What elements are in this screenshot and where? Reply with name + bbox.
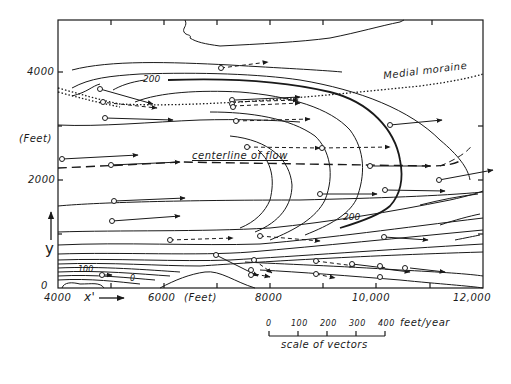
centerline-label: centerline of flow <box>192 150 288 161</box>
scale-tick-400: 400 <box>378 319 395 328</box>
y-axis-unit: (Feet) <box>19 133 52 144</box>
x-tick-8000: 8000 <box>255 292 282 303</box>
x-tick-10000: 10,000 <box>352 292 390 303</box>
x-axis-symbol: x' <box>84 290 95 304</box>
x-tick-4000: 4000 <box>44 292 71 303</box>
scale-tick-100: 100 <box>291 319 308 328</box>
contour-label-100: 100 <box>78 265 93 274</box>
contour-label-0: 0 <box>130 274 135 283</box>
vector-origins <box>60 66 442 280</box>
x-tick-6000: 6000 <box>148 292 175 303</box>
scale-bar <box>269 331 385 336</box>
y-tick-2000: 2000 <box>28 174 55 185</box>
contour-label-200-top: 200 <box>143 74 160 84</box>
x-tick-12000: 12,000 <box>453 292 491 303</box>
scale-caption: scale of vectors <box>281 339 368 350</box>
scale-tick-300: 300 <box>349 319 366 328</box>
contour-label-200-lower: 200 <box>343 212 360 222</box>
velocity-contours <box>58 63 483 288</box>
medial-moraine-line-2 <box>58 92 120 107</box>
velocity-vectors-dashed <box>100 62 390 278</box>
scale-unit: feet/year <box>400 317 450 328</box>
y-axis-symbol: y <box>45 240 54 258</box>
y-tick-0: 0 <box>41 280 48 291</box>
x-axis-unit: (Feet) <box>184 292 217 303</box>
scale-tick-0: 0 <box>266 319 272 328</box>
scale-tick-200: 200 <box>320 319 337 328</box>
medial-moraine-line <box>58 74 483 105</box>
y-tick-4000: 4000 <box>27 66 54 77</box>
